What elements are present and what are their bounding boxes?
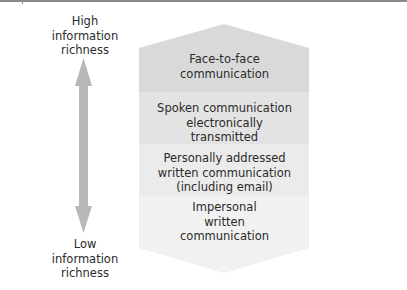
low-richness-label: Low information richness <box>40 237 130 281</box>
label-line: transmitted <box>139 130 310 145</box>
high-richness-label: High information richness <box>40 14 130 58</box>
label-line: Personally addressed <box>139 151 310 166</box>
label-line: information <box>40 252 130 267</box>
label-line: richness <box>40 266 130 281</box>
band-label-personally-addressed: Personally addressed written communicati… <box>139 151 310 195</box>
label-line: richness <box>40 43 130 58</box>
label-line: written <box>139 215 310 230</box>
double-headed-arrow-icon <box>75 58 92 233</box>
band-label-spoken-electronic: Spoken communication electronically tran… <box>139 101 310 145</box>
label-line: communication <box>139 67 310 82</box>
label-line: information <box>40 29 130 44</box>
label-line: (including email) <box>139 180 310 195</box>
band-label-impersonal-written: Impersonal written communication <box>139 200 310 244</box>
label-line: communication <box>139 229 310 244</box>
label-line: Low <box>40 237 130 252</box>
label-line: Impersonal <box>139 200 310 215</box>
label-line: electronically <box>139 116 310 131</box>
label-line: written communication <box>139 166 310 181</box>
label-line: Spoken communication <box>139 101 310 116</box>
band-label-face-to-face: Face-to-face communication <box>139 52 310 81</box>
label-line: Face-to-face <box>139 52 310 67</box>
label-line: High <box>40 14 130 29</box>
